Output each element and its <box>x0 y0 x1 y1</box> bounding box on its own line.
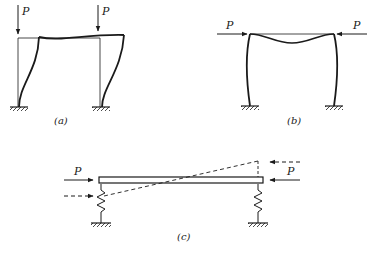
spring-left-icon <box>97 184 105 223</box>
deformed-beam-b <box>250 34 334 43</box>
ground-hatch-right-b <box>325 106 343 110</box>
caption-c: (c) <box>177 232 190 242</box>
deformed-right-column-a <box>102 35 124 107</box>
caption-a: (a) <box>54 116 68 126</box>
ground-hatch-right-c <box>248 223 268 227</box>
ground-hatch-left-a <box>10 107 28 111</box>
ground-hatch-left-b <box>241 106 259 110</box>
caption-b: (b) <box>287 116 301 126</box>
panel-b <box>217 34 367 110</box>
load-label-b-right: P <box>353 20 360 31</box>
load-label-c-right: P <box>287 166 294 177</box>
spring-right-icon <box>254 184 262 223</box>
deformed-left-column-b <box>247 34 250 106</box>
panel-c <box>64 161 300 227</box>
load-label-b-left: P <box>226 20 233 31</box>
deformed-left-column-a <box>19 37 39 107</box>
load-label-a-right: P <box>102 6 109 17</box>
buckling-diagram <box>0 0 375 253</box>
rigid-bar-c <box>99 177 263 183</box>
panel-a <box>10 5 124 111</box>
deformed-right-column-b <box>334 34 337 106</box>
load-label-c-left: P <box>74 166 81 177</box>
load-label-a-left: P <box>22 6 29 17</box>
ground-hatch-right-a <box>92 107 110 111</box>
ground-hatch-left-c <box>91 223 111 227</box>
